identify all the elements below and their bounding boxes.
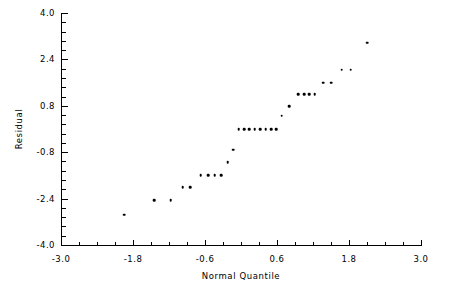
y-axis-line [61,13,62,246]
data-point [281,115,284,118]
data-point [227,161,230,164]
data-point [200,174,203,177]
y-axis-major-tick [62,199,68,200]
data-point [182,186,185,189]
data-point [220,174,223,177]
y-axis-major-tick [62,106,68,107]
y-axis-minor-tick [62,69,66,70]
y-axis-minor-tick [62,161,66,162]
y-axis-tick-label: 2.4 [40,54,55,64]
x-axis-minor-tick [403,242,404,246]
y-axis-minor-tick [62,217,66,218]
data-point [170,199,173,202]
data-point [189,186,192,189]
y-axis-minor-tick [62,189,66,190]
x-axis-minor-tick [187,242,188,246]
x-axis-minor-tick [97,242,98,246]
data-point [308,93,311,96]
y-axis-minor-tick [62,143,66,144]
x-axis-major-tick [277,240,278,246]
y-axis-major-tick [62,245,68,246]
x-axis-minor-tick [241,242,242,246]
data-point [123,213,126,216]
x-axis-minor-tick [115,242,116,246]
y-axis-minor-tick [62,226,66,227]
y-axis-minor-tick [62,50,66,51]
data-point [254,128,257,131]
y-axis-minor-tick [62,97,66,98]
data-point [259,128,262,131]
x-axis-minor-tick [385,242,386,246]
x-axis-tick-label: 3.0 [413,254,428,264]
data-point [243,128,246,131]
data-point [275,128,278,131]
data-point [270,128,273,131]
x-axis-major-tick [349,240,350,246]
data-point [153,199,156,202]
x-axis-major-tick [133,240,134,246]
y-axis-major-tick [62,152,68,153]
y-axis-tick-label: -2.4 [36,194,55,204]
data-point [303,93,306,96]
data-point [350,68,353,71]
data-point [322,81,325,84]
x-axis-title: Normal Quantile [202,271,280,281]
y-axis-minor-tick [62,236,66,237]
x-axis-major-tick [205,240,206,246]
y-axis-minor-tick [62,115,66,116]
x-axis-minor-tick [79,242,80,246]
y-axis-tick-label: -0.8 [36,147,55,157]
y-axis-minor-tick [62,22,66,23]
y-axis-major-tick [62,59,68,60]
y-axis-minor-tick [62,41,66,42]
x-axis-minor-tick [313,242,314,246]
y-axis-tick-label: 4.0 [40,8,55,18]
y-axis-minor-tick [62,171,66,172]
data-point [207,174,210,177]
x-axis-minor-tick [367,242,368,246]
x-axis-minor-tick [295,242,296,246]
y-axis-major-tick [62,13,68,14]
data-point [330,81,333,84]
x-axis-major-tick [421,240,422,246]
x-axis-tick-label: -1.8 [124,254,143,264]
y-axis-minor-tick [62,134,66,135]
data-point [232,149,235,152]
data-point [366,41,369,44]
y-axis-minor-tick [62,32,66,33]
data-point [248,128,251,131]
x-axis-minor-tick [151,242,152,246]
y-axis-title: Residual [14,109,24,150]
y-axis-tick-label: 0.8 [40,101,55,111]
data-point [297,93,300,96]
x-axis-tick-label: 0.6 [269,254,284,264]
data-point [341,68,344,71]
y-axis-minor-tick [62,124,66,125]
x-axis-tick-label: 1.8 [341,254,356,264]
y-axis-minor-tick [62,180,66,181]
x-axis-minor-tick [259,242,260,246]
data-point [264,128,267,131]
plot-area [61,13,421,245]
x-axis-minor-tick [223,242,224,246]
x-axis-minor-tick [169,242,170,246]
y-axis-minor-tick [62,78,66,79]
x-axis-minor-tick [331,242,332,246]
data-point [213,174,216,177]
normal-quantile-plot: -3.0-1.8-0.60.61.83.0 4.02.40.8-0.8-2.4-… [0,0,456,305]
y-axis-minor-tick [62,208,66,209]
data-point [237,128,240,131]
x-axis-tick-label: -3.0 [52,254,71,264]
data-point [288,105,291,108]
x-axis-tick-label: -0.6 [196,254,215,264]
y-axis-minor-tick [62,87,66,88]
data-point [314,93,317,96]
y-axis-tick-label: -4.0 [36,240,55,250]
